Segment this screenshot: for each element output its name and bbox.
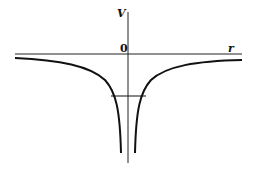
potential-curve-right (135, 60, 242, 153)
r-axis-label: r (228, 42, 235, 55)
potential-curve-left (15, 58, 121, 153)
v-axis-label: V (117, 7, 127, 20)
potential-diagram: V 0 r (0, 0, 253, 170)
origin-label: 0 (120, 42, 128, 55)
